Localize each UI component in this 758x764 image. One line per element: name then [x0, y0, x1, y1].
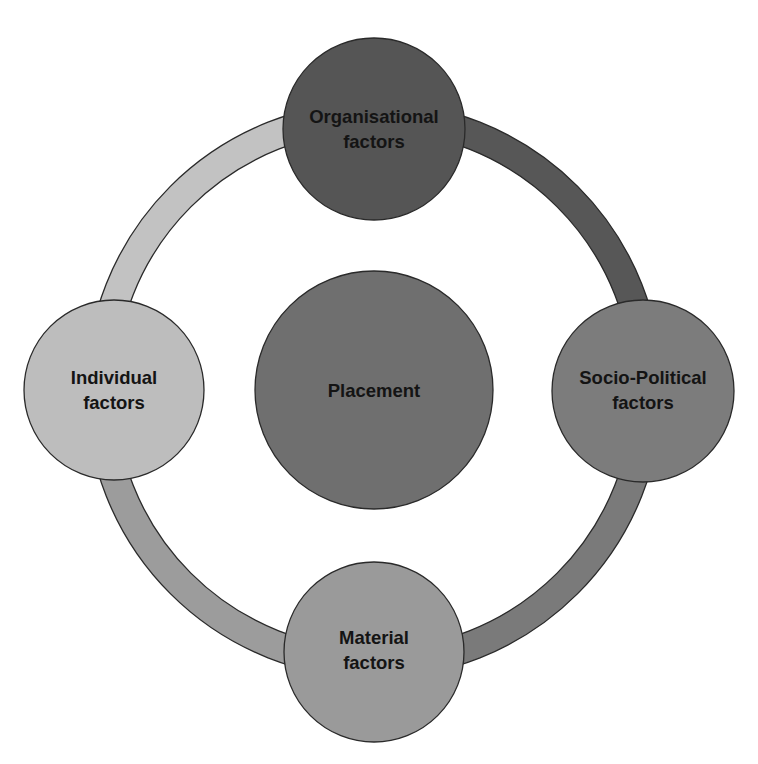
cycle-diagram	[0, 0, 758, 764]
organisational-factors-node	[283, 38, 465, 220]
individual-factors-node	[24, 300, 204, 480]
material-factors-node	[284, 562, 464, 742]
socio-political-factors-node	[552, 300, 734, 482]
placement-hub-node	[255, 271, 493, 509]
